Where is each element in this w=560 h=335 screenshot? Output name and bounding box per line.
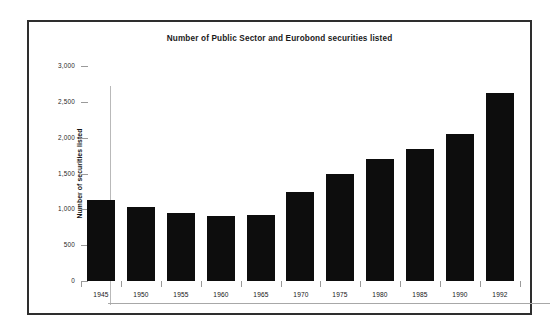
chart-title: Number of Public Sector and Eurobond sec… bbox=[29, 34, 530, 43]
x-axis-tick-label: 1970 bbox=[281, 291, 321, 298]
y-axis-tick-label: 3,000 bbox=[41, 62, 75, 69]
x-axis-tick-label: 1990 bbox=[440, 291, 480, 298]
chart-frame: Number of Public Sector and Eurobond sec… bbox=[27, 20, 532, 315]
x-axis-tick-label: 1955 bbox=[161, 291, 201, 298]
bar bbox=[326, 174, 354, 281]
bar bbox=[167, 213, 195, 281]
x-axis-tick-label: 1975 bbox=[320, 291, 360, 298]
y-axis-tick-label: 1,000 bbox=[41, 205, 75, 212]
bar bbox=[446, 134, 474, 281]
y-axis-tick bbox=[81, 66, 88, 67]
x-axis-tick bbox=[281, 281, 282, 287]
x-axis-tick-label: 1985 bbox=[400, 291, 440, 298]
x-axis-tick bbox=[241, 281, 242, 287]
x-axis-tick bbox=[81, 281, 82, 287]
x-axis-tick bbox=[440, 281, 441, 287]
x-axis-tick bbox=[201, 281, 202, 287]
bar bbox=[207, 216, 235, 281]
y-axis-tick-label: 1,500 bbox=[41, 170, 75, 177]
x-axis-tick bbox=[360, 281, 361, 287]
x-axis-tick bbox=[480, 281, 481, 287]
bar bbox=[486, 93, 514, 281]
x-axis-tick bbox=[121, 281, 122, 287]
x-axis-tick-label: 1980 bbox=[360, 291, 400, 298]
x-axis-line bbox=[108, 303, 550, 304]
x-axis-tick-label: 1960 bbox=[201, 291, 241, 298]
bar bbox=[247, 215, 275, 281]
y-axis-tick bbox=[81, 174, 88, 175]
figure-canvas: Number of Public Sector and Eurobond sec… bbox=[0, 0, 560, 335]
y-axis-tick bbox=[81, 102, 88, 103]
bar bbox=[87, 200, 115, 281]
bar bbox=[406, 149, 434, 281]
x-axis-tick-label: 1945 bbox=[81, 291, 121, 298]
x-axis-tick bbox=[400, 281, 401, 287]
y-axis-tick-label: 2,500 bbox=[41, 98, 75, 105]
y-axis-tick-label: 500 bbox=[41, 241, 75, 248]
y-axis-tick bbox=[81, 138, 88, 139]
bar bbox=[127, 207, 155, 281]
x-axis-tick bbox=[520, 281, 521, 287]
bar bbox=[286, 192, 314, 281]
x-axis-tick bbox=[161, 281, 162, 287]
bar bbox=[366, 159, 394, 281]
y-axis-tick-label: 0 bbox=[41, 277, 75, 284]
x-axis-tick-label: 1965 bbox=[241, 291, 281, 298]
y-axis-tick bbox=[81, 281, 88, 282]
x-axis-tick-label: 1950 bbox=[121, 291, 161, 298]
x-axis-tick-label: 1992 bbox=[480, 291, 520, 298]
x-axis-tick bbox=[320, 281, 321, 287]
y-axis-tick-label: 2,000 bbox=[41, 134, 75, 141]
